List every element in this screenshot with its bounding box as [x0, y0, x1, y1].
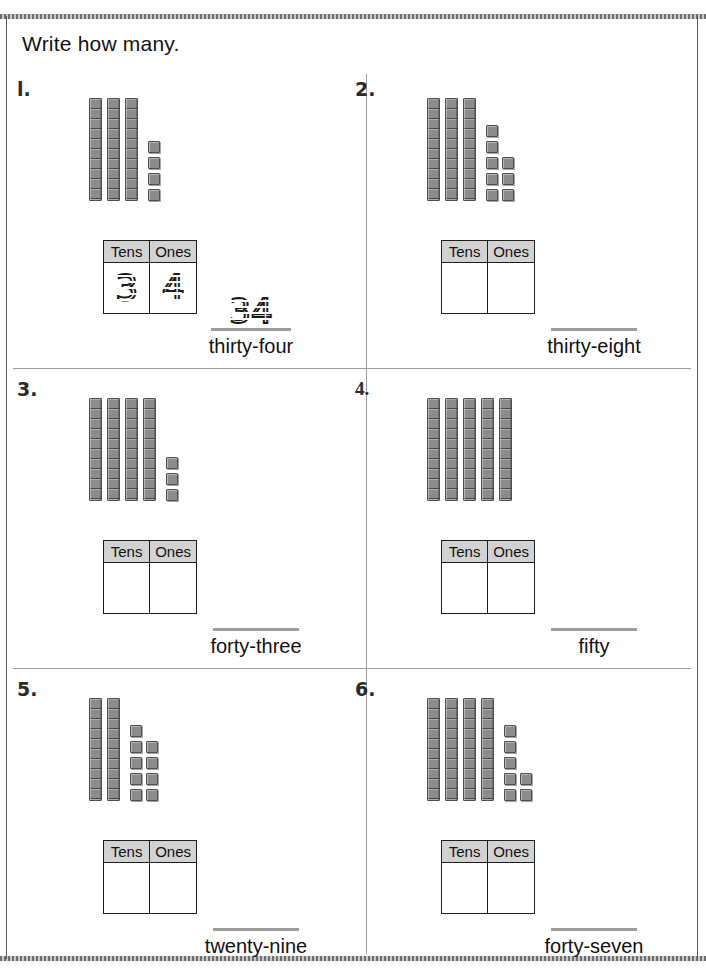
answer-blank-line[interactable]	[213, 928, 299, 931]
one-cube	[502, 189, 514, 201]
place-value-table: TensOnes	[441, 240, 535, 314]
tens-rods	[427, 698, 494, 801]
problem-6: 6.TensOnesforty-seven	[345, 670, 697, 968]
problem-number: 2.	[355, 78, 375, 100]
base-ten-blocks	[89, 386, 178, 501]
ones-input-cell[interactable]	[488, 563, 535, 614]
worksheet-page: Write how many. l.TensOnes3434thirty-fou…	[0, 0, 706, 973]
one-cube	[520, 789, 532, 801]
tens-rods	[89, 398, 156, 501]
answer-blank-line[interactable]	[551, 328, 637, 331]
answer-area[interactable]: 34thirty-four	[151, 294, 351, 358]
tens-input-cell[interactable]	[442, 263, 488, 314]
ones-column	[166, 457, 178, 501]
tens-rods	[89, 98, 138, 201]
table-header-row: TensOnes	[104, 241, 197, 263]
one-cube	[486, 173, 498, 185]
row-divider-2	[13, 668, 691, 669]
one-cube	[166, 489, 178, 501]
tens-rods	[427, 398, 512, 501]
one-cube	[148, 141, 160, 153]
one-cube	[502, 157, 514, 169]
ones-input-cell[interactable]	[150, 563, 197, 614]
tens-header: Tens	[442, 841, 488, 863]
answer-blank-line[interactable]	[551, 628, 637, 631]
ones-cubes	[504, 725, 532, 801]
one-cube	[130, 757, 142, 769]
ones-input-cell[interactable]	[150, 863, 197, 914]
tens-input-cell[interactable]	[442, 863, 488, 914]
ten-rod	[143, 398, 156, 501]
ten-rod	[463, 698, 476, 801]
problem-5: 5.TensOnestwenty-nine	[7, 670, 359, 968]
ones-column	[146, 741, 158, 801]
tens-input-cell[interactable]: 3	[104, 263, 150, 314]
answer-word: fifty	[499, 634, 689, 658]
ones-header: Ones	[150, 841, 197, 863]
base-ten-blocks	[427, 386, 512, 501]
table-answer-row	[442, 863, 535, 914]
problem-number: 4.	[355, 378, 369, 400]
ten-rod	[89, 398, 102, 501]
tens-rods	[427, 98, 476, 201]
answer-word: forty-three	[161, 634, 351, 658]
problem-number: l.	[17, 78, 31, 100]
answer-word: thirty-eight	[499, 334, 689, 358]
ones-header: Ones	[488, 841, 535, 863]
ones-input-cell[interactable]	[488, 863, 535, 914]
answer-area[interactable]: twenty-nine	[161, 928, 351, 958]
ones-header: Ones	[488, 541, 535, 563]
answer-area[interactable]: fifty	[499, 628, 689, 658]
ten-rod	[445, 398, 458, 501]
place-value-table: TensOnes	[441, 540, 535, 614]
ones-cubes	[486, 125, 514, 201]
place-value-table: TensOnes	[103, 540, 197, 614]
ten-rod	[427, 398, 440, 501]
tens-header: Tens	[104, 841, 150, 863]
tens-input-cell[interactable]	[104, 563, 150, 614]
one-cube	[166, 457, 178, 469]
ones-input-cell[interactable]	[488, 263, 535, 314]
tens-header: Tens	[104, 241, 150, 263]
one-cube	[504, 741, 516, 753]
tens-header: Tens	[442, 541, 488, 563]
directions-text: Write how many.	[22, 32, 179, 56]
ten-rod	[481, 398, 494, 501]
ten-rod	[445, 98, 458, 201]
ones-cubes	[166, 457, 178, 501]
problem-4: 4.TensOnesfifty	[345, 370, 697, 668]
problem-number: 5.	[17, 678, 37, 700]
one-cube	[486, 125, 498, 137]
one-cube	[130, 741, 142, 753]
ones-cubes	[130, 725, 158, 801]
tens-input-cell[interactable]	[442, 563, 488, 614]
answer-blank-line[interactable]	[551, 928, 637, 931]
problem-grid: l.TensOnes3434thirty-four2.TensOnesthirt…	[7, 70, 697, 958]
answer-area[interactable]: thirty-eight	[499, 328, 689, 358]
one-cube	[146, 773, 158, 785]
ones-column	[520, 773, 532, 801]
table-header-row: TensOnes	[442, 241, 535, 263]
base-ten-blocks	[427, 86, 514, 201]
row-divider-1	[13, 368, 691, 369]
tens-input-cell[interactable]	[104, 863, 150, 914]
ones-header: Ones	[488, 241, 535, 263]
answer-area[interactable]: forty-seven	[499, 928, 689, 958]
base-ten-blocks	[427, 686, 532, 801]
answer-area[interactable]: forty-three	[161, 628, 351, 658]
ones-column	[486, 125, 498, 201]
ten-rod	[89, 698, 102, 801]
ten-rod	[89, 98, 102, 201]
ones-cubes	[148, 141, 160, 201]
ten-rod	[427, 98, 440, 201]
place-value-table: TensOnes	[103, 840, 197, 914]
base-ten-blocks	[89, 86, 160, 201]
one-cube	[148, 173, 160, 185]
problem-number: 6.	[355, 678, 375, 700]
ten-rod	[107, 698, 120, 801]
ten-rod	[107, 398, 120, 501]
one-cube	[146, 741, 158, 753]
table-answer-row	[104, 563, 197, 614]
tens-header: Tens	[442, 241, 488, 263]
answer-blank-line[interactable]	[213, 628, 299, 631]
